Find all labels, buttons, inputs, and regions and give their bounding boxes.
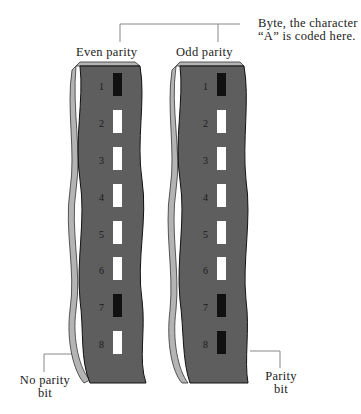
no-parity-bit-label: No parity bit <box>16 374 74 400</box>
even-track-number: 1 <box>99 81 104 92</box>
odd-track-number: 4 <box>203 192 208 203</box>
odd-bit-off <box>217 110 226 133</box>
even-track-number: 3 <box>99 155 104 166</box>
odd-bit-on <box>217 73 226 96</box>
odd-bit-off <box>217 184 226 207</box>
odd-track-number: 3 <box>203 155 208 166</box>
even-bit-off <box>113 331 122 354</box>
even-bit-on <box>113 294 122 317</box>
odd-track-number: 6 <box>203 265 208 276</box>
odd-track-number: 8 <box>203 339 208 350</box>
byte-label-line2: “A” is coded here. <box>258 30 358 43</box>
even-track-number: 2 <box>99 118 104 129</box>
byte-label: Byte, the character “A” is coded here. <box>258 17 358 43</box>
odd-bit-off <box>217 147 226 170</box>
even-track-number: 7 <box>99 302 104 313</box>
parity-line2: bit <box>256 383 306 396</box>
odd-parity-heading: Odd parity <box>176 46 233 59</box>
even-bit-off <box>113 147 122 170</box>
even-bit-off <box>113 184 122 207</box>
odd-bit-on <box>217 331 226 354</box>
even-track-number: 8 <box>99 339 104 350</box>
odd-bit-on <box>217 294 226 317</box>
parity-bit-label: Parity bit <box>256 370 306 396</box>
even-track-number: 4 <box>99 192 104 203</box>
odd-bit-off <box>217 257 226 280</box>
odd-track-number: 1 <box>203 81 208 92</box>
odd-track-number: 7 <box>203 302 208 313</box>
odd-track-number: 5 <box>203 229 208 240</box>
no-parity-line2: bit <box>16 387 74 400</box>
odd-bit-off <box>217 221 226 244</box>
even-bit-off <box>113 110 122 133</box>
parity-leader-line <box>250 351 280 368</box>
byte-leader-line <box>120 24 240 42</box>
even-track-number: 6 <box>99 265 104 276</box>
even-bit-off <box>113 257 122 280</box>
even-parity-heading: Even parity <box>76 46 137 59</box>
even-bit-off <box>113 221 122 244</box>
odd-track-number: 2 <box>203 118 208 129</box>
even-track-number: 5 <box>99 229 104 240</box>
even-parity-tape <box>68 62 146 383</box>
odd-parity-tape <box>168 62 248 383</box>
even-bit-on <box>113 73 122 96</box>
diagram-graphics <box>0 0 361 414</box>
